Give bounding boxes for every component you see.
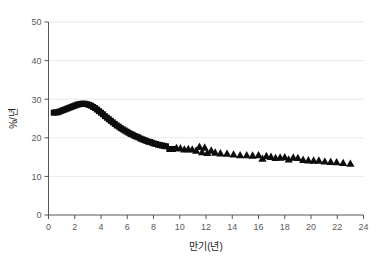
x-tick-label-6: 6	[125, 222, 130, 232]
y-tick-label-10: 10	[31, 172, 41, 182]
x-tick-label-14: 14	[227, 222, 237, 232]
x-tick-label-18: 18	[280, 222, 290, 232]
x-tick-label-20: 20	[306, 222, 316, 232]
scatter-chart: 024681012141618202224 01020304050 만기(년) …	[0, 0, 389, 265]
y-tick-label-40: 40	[31, 56, 41, 66]
y-tick-label-30: 30	[31, 95, 41, 105]
x-tick-label-22: 22	[332, 222, 342, 232]
x-axis-title: 만기(년)	[189, 241, 223, 252]
y-axis-title: %/년	[8, 108, 19, 129]
x-tick-label-2: 2	[72, 222, 77, 232]
x-tick-label-24: 24	[358, 222, 368, 232]
chart-figure: 024681012141618202224 01020304050 만기(년) …	[0, 0, 389, 265]
y-tick-label-0: 0	[36, 210, 41, 220]
x-tick-label-4: 4	[98, 222, 103, 232]
x-tick-label-12: 12	[201, 222, 211, 232]
x-tick-label-0: 0	[46, 222, 51, 232]
y-tick-label-20: 20	[31, 133, 41, 143]
x-tick-label-16: 16	[253, 222, 263, 232]
x-tick-label-8: 8	[151, 222, 156, 232]
chart-background	[0, 0, 389, 265]
x-tick-label-10: 10	[175, 222, 185, 232]
y-tick-label-50: 50	[31, 17, 41, 27]
